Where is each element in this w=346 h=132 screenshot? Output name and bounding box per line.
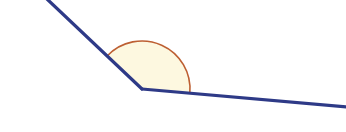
- angle-figure-canvas: [0, 0, 346, 132]
